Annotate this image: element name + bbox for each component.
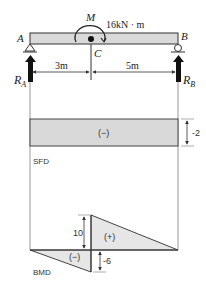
bmd-positive-value: 10	[73, 228, 83, 238]
bmd-negative-sign: (−)	[69, 252, 80, 262]
bmd-label: BMD	[33, 268, 51, 277]
bmd-positive-sign: (+)	[104, 232, 115, 242]
pin-support-a-icon	[25, 44, 35, 51]
moment-symbol: M	[85, 11, 96, 23]
beam-diagram: A B C M 16kN · m 3m 5m RA RB (−) -2 SFD …	[0, 0, 206, 288]
sfd-value: -2	[192, 128, 200, 138]
label-a: A	[16, 32, 24, 44]
roller-support-b-icon	[175, 45, 182, 52]
point-c-dot	[88, 36, 94, 42]
sfd-label: SFD	[33, 157, 49, 166]
bmd-negative-value: -6	[103, 256, 111, 266]
reaction-a-label: RA	[13, 73, 26, 89]
span-right-label: 5m	[126, 60, 139, 71]
reaction-arrow-b-icon	[176, 61, 181, 82]
sfd-sign: (−)	[98, 128, 109, 138]
moment-value: 16kN · m	[106, 19, 145, 30]
label-b: B	[181, 30, 188, 42]
reaction-b-label: RB	[182, 73, 195, 89]
span-left-label: 3m	[55, 60, 68, 71]
label-c: C	[94, 47, 102, 59]
reaction-arrow-a-icon	[28, 61, 33, 82]
